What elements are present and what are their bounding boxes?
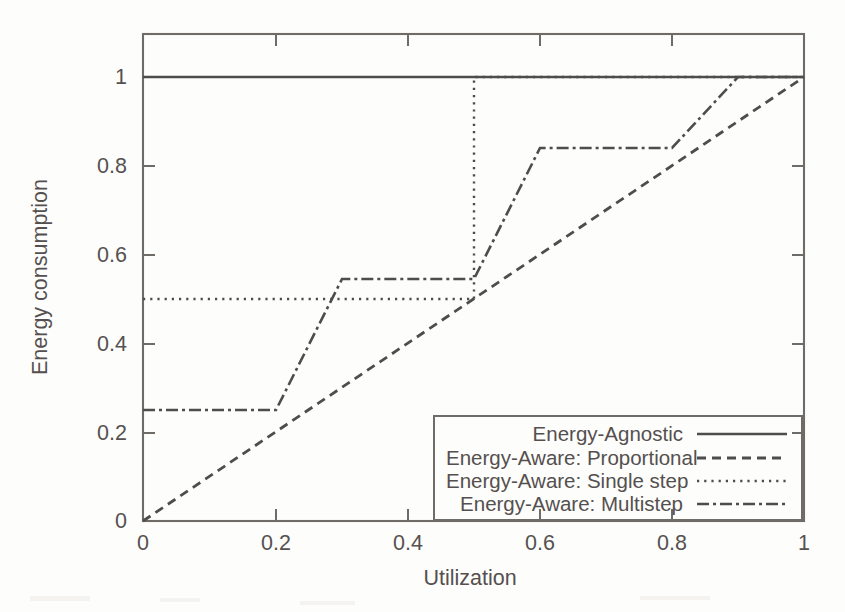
legend-label-energy-aware-proportional: Energy-Aware: Proportional [446, 446, 683, 470]
x-tick-label-0-8: 0.8 [657, 531, 687, 556]
x-axis-title: Utilization [423, 566, 516, 591]
x-tick-label-1: 1 [798, 531, 810, 556]
chart-figure: 1 0.8 0.6 0.4 0.2 0 0 0.2 0.4 0.6 0.8 1 … [0, 0, 845, 612]
y-tick-label-0: 0 [95, 509, 127, 534]
y-tick-label-0-6: 0.6 [72, 243, 127, 268]
series-line-energy-aware-single-step [143, 77, 804, 299]
x-tick-label-0-2: 0.2 [261, 531, 291, 556]
x-tick-label-0-4: 0.4 [393, 531, 423, 556]
x-tick-label-0: 0 [137, 531, 149, 556]
x-tick-label-0-6: 0.6 [525, 531, 555, 556]
legend-label-energy-aware-multistep: Energy-Aware: Multistep [446, 492, 683, 516]
legend-label-energy-agnostic: Energy-Agnostic [446, 422, 683, 446]
y-tick-label-1: 1 [95, 65, 127, 90]
y-tick-label-0-8: 0.8 [72, 154, 127, 179]
y-tick-label-0-4: 0.4 [72, 332, 127, 357]
series-line-energy-aware-multistep [143, 77, 804, 410]
legend-label-energy-aware-single-step: Energy-Aware: Single step [446, 469, 683, 493]
y-tick-label-0-2: 0.2 [72, 421, 127, 446]
y-axis-title: Energy consumption [28, 179, 53, 375]
